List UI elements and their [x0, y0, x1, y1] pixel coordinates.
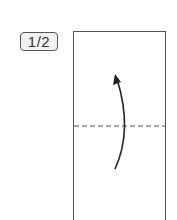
curved-arrow-icon	[113, 74, 125, 169]
fold-diagram	[0, 0, 177, 220]
